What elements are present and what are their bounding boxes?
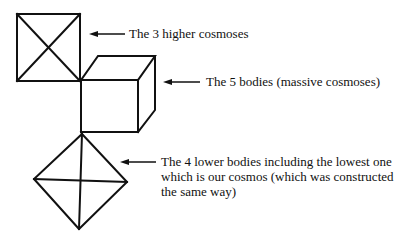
cube-shape bbox=[81, 56, 155, 132]
label-lower-bodies-line2: which is our cosmos (which was construct… bbox=[161, 169, 394, 184]
diamond-shape bbox=[34, 134, 127, 229]
arrow-higher-cosmoses bbox=[89, 31, 125, 37]
arrow-lower-bodies bbox=[120, 159, 156, 165]
diagram-canvas: The 3 higher cosmoses The 5 bodies (mass… bbox=[0, 0, 408, 237]
label-lower-bodies-line1: The 4 lower bodies including the lowest … bbox=[161, 154, 392, 169]
label-lower-bodies-line3: the same way) bbox=[161, 184, 236, 199]
label-higher-cosmoses: The 3 higher cosmoses bbox=[129, 26, 249, 41]
arrow-five-bodies bbox=[163, 79, 200, 85]
label-five-bodies: The 5 bodies (massive cosmoses) bbox=[206, 74, 380, 89]
square-shape bbox=[17, 14, 80, 81]
